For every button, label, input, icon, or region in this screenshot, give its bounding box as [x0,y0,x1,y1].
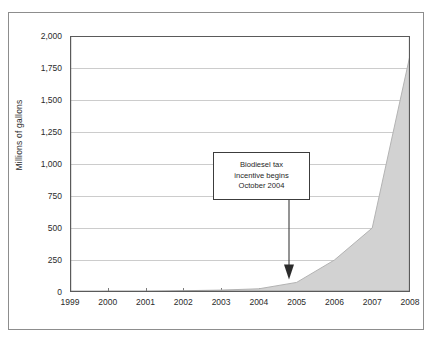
y-tick-label: 1,250 [18,127,62,137]
x-tick-label: 2000 [88,297,128,307]
x-tick-label: 2008 [390,297,430,307]
x-tick-label: 2005 [277,297,317,307]
x-tick-label: 2004 [239,297,279,307]
annotation-callout: Biodiesel tax incentive begins October 2… [213,152,310,200]
y-tick-label: 1,500 [18,95,62,105]
annotation-line-2: incentive begins [234,171,288,182]
x-tick-label: 2002 [163,297,203,307]
x-tick-label: 2007 [352,297,392,307]
x-tick-label: 1999 [50,297,90,307]
x-tick-label: 2006 [314,297,354,307]
annotation-line-3: October 2004 [238,181,284,192]
y-tick-label: 0 [18,287,62,297]
x-tick-label: 2001 [126,297,166,307]
y-tick-label: 1,750 [18,63,62,73]
y-tick-label: 500 [18,223,62,233]
annotation-line-1: Biodiesel tax [240,160,283,171]
y-tick-label: 1,000 [18,159,62,169]
y-tick-label: 750 [18,191,62,201]
chart-figure: Millions of gallons 02505007501,0001,250… [0,0,434,340]
y-tick-label: 250 [18,255,62,265]
x-tick-label: 2003 [201,297,241,307]
y-tick-label: 2,000 [18,31,62,41]
